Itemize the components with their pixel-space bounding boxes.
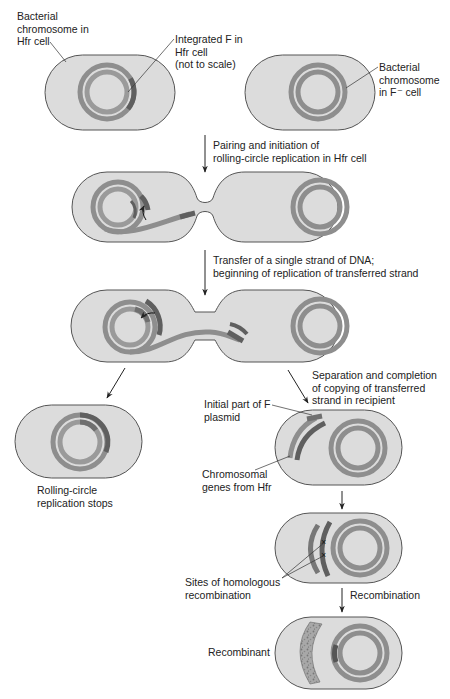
recombination-cell: × ×: [275, 513, 402, 583]
label-recombinant: Recombinant: [208, 646, 270, 659]
label-sites-recombination: Sites of homologous recombination: [185, 576, 280, 601]
label-integrated-f: Integrated F in Hfr cell (not to scale): [175, 33, 243, 71]
recipient-cell-separated: [275, 410, 402, 485]
label-hfr-chromosome: Bacterial chromosome in Hfr cell: [17, 10, 89, 48]
label-step1: Pairing and initiation of rolling-circle…: [213, 139, 366, 164]
arrow-to-left-result: [107, 368, 125, 398]
label-rolling-circle-stops: Rolling-circle replication stops: [37, 484, 113, 509]
label-step2: Transfer of a single strand of DNA; begi…: [213, 254, 418, 279]
conjugating-pair-transfer: [71, 290, 347, 362]
conjugating-pair-initiation: [72, 172, 347, 242]
crossover-x-icon: ×: [321, 550, 326, 560]
hfr-cell: [45, 55, 175, 130]
label-separation: Separation and completion of copying of …: [312, 369, 437, 407]
label-chromosomal-genes: Chromosomal genes from Hfr: [202, 468, 271, 493]
leader-initial-f: [272, 405, 312, 415]
label-recombination: Recombination: [350, 589, 420, 602]
crossover-x-icon: ×: [321, 537, 326, 547]
hfr-cell-after: [15, 405, 142, 478]
arrow-to-right-result: [288, 370, 308, 403]
f-minus-cell: [245, 55, 375, 130]
label-initial-f-plasmid: Initial part of F plasmid: [204, 398, 271, 423]
label-f-minus-chromosome: Bacterial chromosome in F⁻ cell: [379, 61, 440, 99]
recombinant-cell: [275, 617, 402, 689]
